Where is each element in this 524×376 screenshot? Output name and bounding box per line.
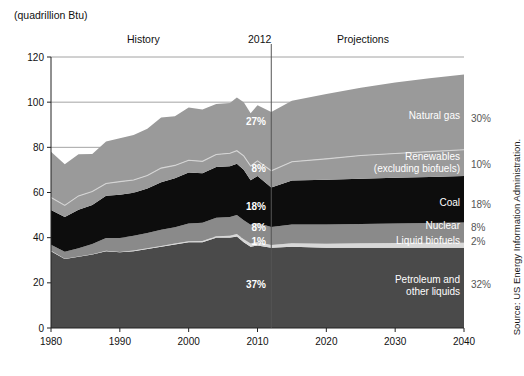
x-tick-label: 1980 <box>40 336 63 347</box>
pct-2040-renewables-excluding-biofuels: 10% <box>471 159 491 170</box>
y-tick-label: 120 <box>27 52 44 63</box>
x-tick-labels: 1980199020002010202020302040 <box>40 328 476 347</box>
percent-labels-2040: 32%2%8%18%10%30% <box>471 113 491 290</box>
pct-2012-petroleum-and-other-liquids: 37% <box>246 279 266 290</box>
y-tick-label: 0 <box>38 323 44 334</box>
stacked-area-chart: 020406080100120 198019902000201020202030… <box>0 0 524 376</box>
series-label-liquid-biofuels: Liquid biofuels <box>396 235 460 246</box>
series-label-natural-gas: Natural gas <box>409 110 460 121</box>
pct-2012-nuclear: 8% <box>252 222 267 233</box>
source-note: Source: US Energy Information Administra… <box>511 139 522 335</box>
pct-2012-renewables-excluding-biofuels: 8% <box>252 163 267 174</box>
x-tick-label: 1990 <box>109 336 132 347</box>
series-label-coal: Coal <box>439 197 460 208</box>
chart-figure: (quadrillion Btu) History 2012 Projectio… <box>0 0 524 376</box>
pct-2040-natural-gas: 30% <box>471 113 491 124</box>
x-tick-label: 2000 <box>178 336 201 347</box>
pct-2040-coal: 18% <box>471 199 491 210</box>
pct-2040-nuclear: 8% <box>471 222 486 233</box>
source-note-wrapper: Source: US Energy Information Administra… <box>508 112 524 362</box>
y-tick-label: 60 <box>33 187 45 198</box>
y-tick-labels: 020406080100120 <box>27 52 51 334</box>
x-tick-label: 2030 <box>384 336 407 347</box>
pct-2040-petroleum-and-other-liquids: 32% <box>471 279 491 290</box>
x-tick-label: 2010 <box>246 336 269 347</box>
y-tick-label: 20 <box>33 277 45 288</box>
pct-2012-coal: 18% <box>246 201 266 212</box>
series-label-nuclear: Nuclear <box>426 220 461 231</box>
pct-2012-natural-gas: 27% <box>246 116 266 127</box>
pct-2040-liquid-biofuels: 2% <box>471 236 486 247</box>
y-tick-label: 100 <box>27 97 44 108</box>
pct-2012-liquid-biofuels: 1% <box>252 236 267 247</box>
x-tick-label: 2020 <box>315 336 338 347</box>
y-tick-label: 80 <box>33 142 45 153</box>
x-tick-label: 2040 <box>453 336 476 347</box>
y-tick-label: 40 <box>33 232 45 243</box>
